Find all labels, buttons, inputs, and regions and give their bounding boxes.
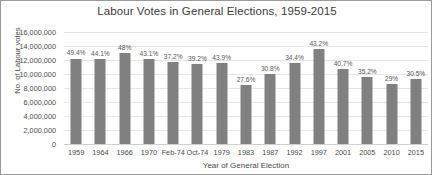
bar-value-label: 35.2% <box>358 68 377 75</box>
bar-slot: 30.5%2015 <box>404 32 428 144</box>
x-axis-tick-label: 1992 <box>286 148 302 157</box>
bar[interactable] <box>143 59 154 144</box>
bar[interactable] <box>338 69 349 144</box>
y-axis-tick-label: 16,000,000 <box>0 28 56 37</box>
x-axis-tick-label: 2001 <box>335 148 351 157</box>
bar-slot: 49.4%1959 <box>64 32 88 144</box>
bar[interactable] <box>289 63 300 144</box>
bar[interactable] <box>192 64 203 144</box>
bar[interactable] <box>168 62 179 144</box>
x-axis-title: Year of General Election <box>64 161 428 170</box>
y-axis-tick-label: 0 <box>0 140 56 149</box>
bar-value-label: 29% <box>385 75 398 82</box>
x-axis-tick-label: Oct-74 <box>187 148 209 157</box>
y-axis-tick-label: 14,000,000 <box>0 42 56 51</box>
bar-value-label: 43.9% <box>212 54 231 61</box>
bar-value-label: 43.1% <box>140 50 159 57</box>
bar-slot: 43.2%1997 <box>307 32 331 144</box>
x-axis-tick-label: 1970 <box>141 148 157 157</box>
x-axis-tick-label: 1997 <box>311 148 327 157</box>
bar-value-label: 37.2% <box>164 53 183 60</box>
y-axis-tick-label: 8,000,000 <box>0 84 56 93</box>
bar-slot: 37.2%Feb-74 <box>161 32 185 144</box>
chart-title: Labour Votes in General Elections, 1959-… <box>1 5 432 17</box>
bar-value-label: 30.5% <box>406 70 425 77</box>
bar-slot: 44.1%1964 <box>88 32 112 144</box>
bar-slot: 43.9%1979 <box>210 32 234 144</box>
bar-slot: 39.2%Oct-74 <box>185 32 209 144</box>
bar-value-label: 48% <box>118 44 131 51</box>
bar-slot: 30.8%1987 <box>258 32 282 144</box>
bar-slot: 35.2%2005 <box>355 32 379 144</box>
bar-value-label: 43.2% <box>309 40 328 47</box>
y-axis-tick-label: 6,000,000 <box>0 98 56 107</box>
y-axis-tick-label: 10,000,000 <box>0 70 56 79</box>
bar-slot: 29%2010 <box>379 32 403 144</box>
bar-value-label: 49.4% <box>67 49 86 56</box>
x-axis-tick-label: 1959 <box>68 148 84 157</box>
bar[interactable] <box>362 77 373 144</box>
bar[interactable] <box>216 63 227 144</box>
x-axis-tick-label: 2010 <box>383 148 399 157</box>
bar-slot: 40.7%2001 <box>331 32 355 144</box>
bar-slot: 48%1966 <box>113 32 137 144</box>
x-axis-tick-label: 2005 <box>359 148 375 157</box>
bar-value-label: 39.2% <box>188 55 207 62</box>
bar[interactable] <box>119 53 130 144</box>
x-axis-tick-label: 1987 <box>262 148 278 157</box>
bar-value-label: 44.1% <box>91 50 110 57</box>
bar-value-label: 27.6% <box>237 76 256 83</box>
x-axis-tick-label: 1979 <box>214 148 230 157</box>
bar[interactable] <box>313 49 324 144</box>
bar-chart-figure: Labour Votes in General Elections, 1959-… <box>0 0 432 175</box>
x-axis-tick-label: Feb-74 <box>162 148 185 157</box>
bar-slot: 43.1%1970 <box>137 32 161 144</box>
y-axis-tick-label: 4,000,000 <box>0 112 56 121</box>
bar[interactable] <box>95 59 106 144</box>
bar-slot: 27.6%1983 <box>234 32 258 144</box>
bar[interactable] <box>386 84 397 144</box>
bar-value-label: 40.7% <box>334 60 353 67</box>
bar-value-label: 30.8% <box>261 65 280 72</box>
x-axis-line <box>64 144 428 145</box>
bar-slot: 34.4%1992 <box>282 32 306 144</box>
x-axis-tick-label: 1983 <box>238 148 254 157</box>
bar[interactable] <box>410 79 421 144</box>
y-axis-tick-label: 2,000,000 <box>0 126 56 135</box>
y-axis-tick-label: 12,000,000 <box>0 56 56 65</box>
bar-value-label: 34.4% <box>285 54 304 61</box>
x-axis-tick-label: 1964 <box>92 148 108 157</box>
x-axis-tick-label: 2015 <box>408 148 424 157</box>
bar[interactable] <box>71 59 82 145</box>
x-axis-tick-label: 1966 <box>117 148 133 157</box>
bar[interactable] <box>265 74 276 144</box>
plot-area: 16,000,00014,000,00012,000,00010,000,000… <box>64 32 428 144</box>
bar[interactable] <box>240 85 251 144</box>
